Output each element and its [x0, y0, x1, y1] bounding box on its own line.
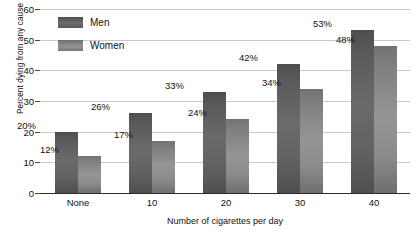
y-tick-mark — [35, 193, 40, 194]
y-tick-mark — [35, 162, 40, 163]
legend-label-women: Women — [90, 40, 124, 51]
bar-women — [78, 156, 101, 193]
bar-value-label: 12% — [33, 144, 67, 155]
legend-item-women: Women — [58, 38, 124, 52]
y-tick-mark — [35, 40, 40, 41]
bar-women — [300, 89, 323, 193]
y-tick-label: 30 — [10, 96, 34, 107]
x-tick-label: 20 — [196, 197, 256, 208]
bar-value-label: 26% — [84, 101, 118, 112]
x-tick-label: 30 — [270, 197, 330, 208]
bar-value-label: 48% — [329, 34, 363, 45]
bar-men — [129, 113, 152, 193]
x-tick-label: 10 — [122, 197, 182, 208]
y-tick-label: 0 — [10, 188, 34, 199]
bar-women — [374, 46, 397, 193]
y-tick-mark — [35, 132, 40, 133]
bar-value-label: 17% — [107, 129, 141, 140]
bar-value-label: 53% — [306, 18, 340, 29]
legend-label-men: Men — [90, 17, 109, 28]
y-tick-label: 50 — [10, 34, 34, 45]
bar-women — [226, 119, 249, 193]
bar-group — [203, 9, 249, 193]
bar-value-label: 42% — [232, 52, 266, 63]
bar-value-label: 20% — [10, 120, 44, 131]
bar-value-label: 24% — [181, 107, 215, 118]
bar-women — [152, 141, 175, 193]
legend-swatch-women-icon — [58, 40, 83, 51]
y-tick-mark — [35, 9, 40, 10]
x-tick-label: 40 — [344, 197, 404, 208]
bar-group — [277, 9, 323, 193]
x-tick-label: None — [48, 197, 108, 208]
y-tick-label: 10 — [10, 157, 34, 168]
bar-chart: Percent dying from any cause Number of c… — [0, 0, 418, 235]
x-axis-title: Number of cigarettes per day — [40, 216, 410, 226]
legend-swatch-men-icon — [58, 17, 83, 28]
legend-item-men: Men — [58, 15, 124, 29]
y-tick-mark — [35, 70, 40, 71]
bar-men — [55, 132, 78, 193]
bar-value-label: 33% — [158, 80, 192, 91]
bar-men — [351, 30, 374, 193]
x-axis-line — [40, 193, 410, 194]
chart-legend: Men Women — [58, 15, 124, 61]
y-tick-label: 40 — [10, 65, 34, 76]
bar-value-label: 34% — [255, 77, 289, 88]
y-tick-label: 60 — [10, 4, 34, 15]
bar-group — [129, 9, 175, 193]
y-tick-mark — [35, 101, 40, 102]
